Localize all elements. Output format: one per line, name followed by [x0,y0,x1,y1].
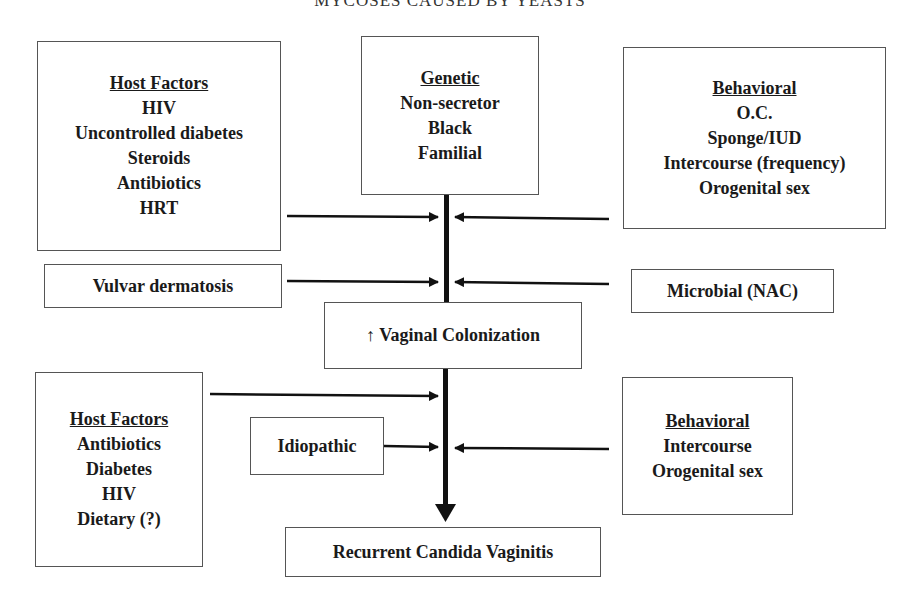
central-spine-upper [444,195,449,302]
arrow-behavioral-bottom [455,448,609,449]
arrow-idiopathic [384,446,438,447]
flow-arrows [0,0,909,600]
arrow-microbial [455,282,609,284]
central-spine-lower [443,369,448,506]
arrow-vulvar-dermatosis [287,281,438,282]
arrow-host-factors-bottom [210,394,438,396]
arrow-behavioral-top [455,217,609,219]
arrow-host-factors-top [287,216,438,217]
down-arrowhead [435,504,456,522]
